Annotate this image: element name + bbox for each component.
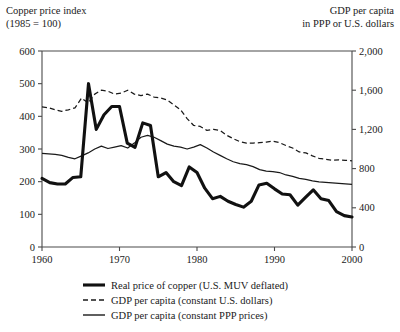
plot-frame <box>42 51 352 247</box>
right-tick-label: 800 <box>359 163 375 174</box>
legend-label: GDP per capita (constant PPP prices) <box>111 310 268 322</box>
left-tick-label: 600 <box>19 46 35 57</box>
left-axis-title-line-1: Copper price index <box>6 5 87 16</box>
legend-label: Real price of copper (U.S. MUV deflated) <box>111 280 289 292</box>
right-tick-label: 400 <box>359 202 375 213</box>
series-layer <box>42 84 352 217</box>
legend-label: GDP per capita (constant U.S. dollars) <box>111 295 273 307</box>
left-tick-label: 300 <box>19 144 35 155</box>
right-tick-label: 1,200 <box>359 124 383 135</box>
series-line-real-price-of-copper <box>42 84 352 217</box>
x-tick-label: 1960 <box>32 254 53 265</box>
left-tick-label: 200 <box>19 176 35 187</box>
right-axis-title-line-1: GDP per capita <box>330 5 395 16</box>
right-tick-label: 0 <box>359 242 364 253</box>
right-axis-ticks: 04008001,2001,6002,000 <box>352 46 383 253</box>
left-tick-label: 0 <box>30 242 35 253</box>
left-axis-title-line-2: (1985 = 100) <box>6 18 61 30</box>
x-axis-ticks: 19601970198019902000 <box>32 247 363 265</box>
x-tick-label: 1980 <box>187 254 208 265</box>
copper-price-gdp-chart: Copper price index (1985 = 100) GDP per … <box>0 0 400 332</box>
x-tick-label: 1990 <box>264 254 285 265</box>
x-tick-label: 1970 <box>109 254 130 265</box>
x-tick-label: 2000 <box>342 254 363 265</box>
right-tick-label: 2,000 <box>359 46 383 57</box>
right-axis-title-line-2: in PPP or U.S. dollars <box>302 18 394 29</box>
right-tick-label: 1,600 <box>359 85 383 96</box>
chart-legend: Real price of copper (U.S. MUV deflated)… <box>83 280 289 322</box>
right-axis-title: GDP per capita in PPP or U.S. dollars <box>302 5 394 29</box>
left-axis-title: Copper price index (1985 = 100) <box>6 5 87 30</box>
left-axis-ticks: 0100200300400500600 <box>19 46 42 253</box>
left-tick-label: 500 <box>19 78 35 89</box>
left-tick-label: 100 <box>19 209 35 220</box>
series-line-gdp-per-capita-ppp <box>42 135 352 184</box>
left-tick-label: 400 <box>19 111 35 122</box>
